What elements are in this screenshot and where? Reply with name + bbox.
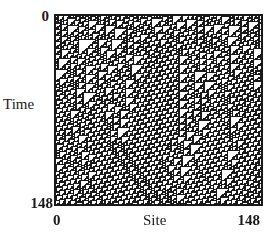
- y-axis-label: Time: [3, 97, 34, 112]
- x-axis-label: Site: [143, 213, 166, 228]
- y-tick-top: 0: [42, 9, 50, 24]
- cellular-automaton-canvas: [56, 16, 261, 204]
- spacetime-plot: [54, 14, 263, 206]
- y-tick-bottom: 148: [31, 196, 54, 211]
- x-tick-left: 0: [53, 213, 61, 228]
- x-tick-right: 148: [238, 213, 261, 228]
